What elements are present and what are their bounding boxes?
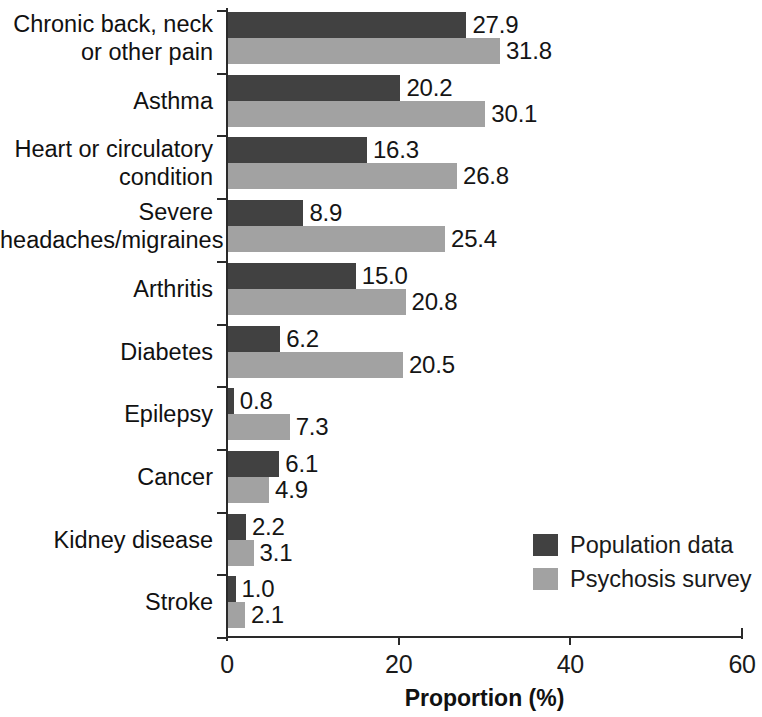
bar-value-label: 6.2: [286, 325, 319, 353]
chart-legend: Population data Psychosis survey: [533, 528, 752, 596]
bar-value-label: 15.0: [362, 262, 408, 290]
y-axis-tick: [217, 10, 226, 12]
bar-value-label: 25.4: [451, 225, 497, 253]
bar-value-label: 20.5: [409, 351, 455, 379]
x-axis-tick-label: 40: [557, 650, 584, 679]
y-axis-tick: [217, 261, 226, 263]
category-label: Cancer: [0, 463, 213, 491]
category-label-line: Severe: [0, 198, 213, 226]
bar-value-label: 27.9: [472, 11, 518, 39]
bar-psychosis-survey: [227, 540, 254, 566]
category-label: Severeheadaches/migraines: [0, 198, 213, 254]
bar-psychosis-survey: [227, 477, 269, 503]
y-axis-tick: [217, 324, 226, 326]
bar-value-label: 0.8: [240, 387, 273, 415]
bar-psychosis-survey: [227, 289, 406, 315]
bar-population-data: [227, 326, 280, 352]
bar-population-data: [227, 514, 246, 540]
x-axis-tick-label: 0: [220, 650, 234, 679]
y-axis-tick: [217, 135, 226, 137]
bar-value-label: 6.1: [285, 450, 318, 478]
category-label: Chronic back, neckor other pain: [0, 10, 213, 66]
bar-population-data: [227, 12, 466, 38]
bar-psychosis-survey: [227, 414, 290, 440]
category-label-line: Chronic back, neck: [0, 10, 213, 38]
legend-item-population-data: Population data: [533, 528, 752, 562]
bar-population-data: [227, 451, 279, 477]
legend-swatch-icon-psychosis-survey: [533, 568, 558, 590]
bar-value-label: 16.3: [373, 136, 419, 164]
category-label-line: Cancer: [0, 463, 213, 491]
bar-value-label: 4.9: [275, 476, 308, 504]
category-label-line: Epilepsy: [0, 400, 213, 428]
legend-swatch-icon-population-data: [533, 534, 558, 556]
category-label: Asthma: [0, 87, 213, 115]
category-label: Stroke: [0, 588, 213, 616]
x-axis-tick: [569, 636, 571, 645]
bar-value-label: 2.2: [252, 513, 285, 541]
legend-item-psychosis-survey: Psychosis survey: [533, 562, 752, 596]
y-axis-tick: [217, 73, 226, 75]
y-axis-tick: [217, 449, 226, 451]
bar-psychosis-survey: [227, 101, 485, 127]
bar-psychosis-survey: [227, 352, 403, 378]
category-label-line: Kidney disease: [0, 526, 213, 554]
bar-value-label: 20.8: [412, 288, 458, 316]
bar-value-label: 7.3: [296, 413, 329, 441]
category-label-line: Asthma: [0, 87, 213, 115]
x-axis-line: [226, 636, 742, 638]
bar-psychosis-survey: [227, 226, 445, 252]
category-label: Arthritis: [0, 275, 213, 303]
bar-population-data: [227, 200, 303, 226]
category-label-line: Arthritis: [0, 275, 213, 303]
y-axis-tick: [217, 637, 226, 639]
category-label-line: or other pain: [0, 38, 213, 66]
y-axis-tick: [217, 198, 226, 200]
bar-psychosis-survey: [227, 38, 500, 64]
y-axis-tick: [217, 574, 226, 576]
bar-chart: Chronic back, neckor other painAsthmaHea…: [0, 0, 762, 717]
bar-population-data: [227, 263, 356, 289]
category-label-line: headaches/migraines: [0, 226, 213, 254]
bar-value-label: 31.8: [506, 37, 552, 65]
category-label: Kidney disease: [0, 526, 213, 554]
y-axis-tick: [217, 386, 226, 388]
category-label-line: Stroke: [0, 588, 213, 616]
x-axis-tick-label: 20: [385, 650, 412, 679]
x-axis-title: Proportion (%): [227, 685, 742, 712]
bar-value-label: 2.1: [251, 601, 284, 629]
bar-value-label: 1.0: [242, 575, 275, 603]
x-axis-tick: [741, 628, 743, 639]
bar-value-label: 30.1: [491, 100, 537, 128]
x-axis-tick: [398, 636, 400, 645]
category-label-line: condition: [0, 163, 213, 191]
category-label-line: Diabetes: [0, 338, 213, 366]
x-axis-tick: [226, 630, 228, 641]
category-label: Heart or circulatorycondition: [0, 135, 213, 191]
y-axis-tick: [217, 512, 226, 514]
category-label: Diabetes: [0, 338, 213, 366]
bar-value-label: 8.9: [309, 199, 342, 227]
x-axis-tick-label: 60: [728, 650, 755, 679]
bar-value-label: 20.2: [406, 74, 452, 102]
category-label: Epilepsy: [0, 400, 213, 428]
bar-psychosis-survey: [227, 163, 457, 189]
bar-value-label: 26.8: [463, 162, 509, 190]
bar-value-label: 3.1: [260, 539, 293, 567]
bar-psychosis-survey: [227, 602, 245, 628]
bar-population-data: [227, 576, 236, 602]
category-label-line: Heart or circulatory: [0, 135, 213, 163]
bar-population-data: [227, 75, 400, 101]
y-axis-line: [226, 8, 228, 637]
bar-population-data: [227, 137, 367, 163]
legend-label-psychosis-survey: Psychosis survey: [570, 566, 752, 593]
legend-label-population-data: Population data: [570, 532, 733, 559]
bar-population-data: [227, 388, 234, 414]
